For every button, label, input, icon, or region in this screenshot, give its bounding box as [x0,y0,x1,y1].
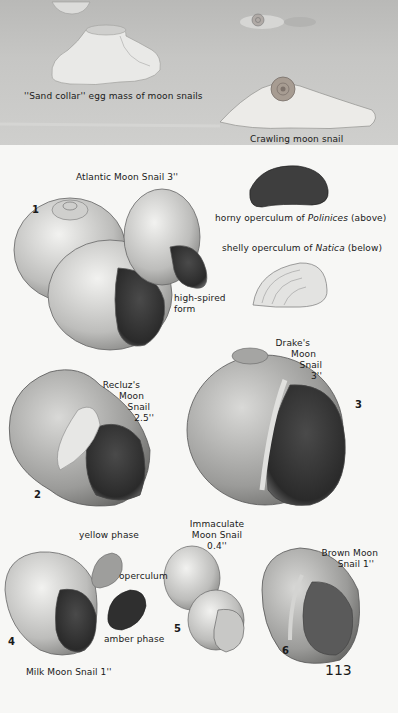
high-spired-label-line2: form [174,304,226,315]
figure-number-1: 1 [32,204,39,215]
recluz-moon-snail-label: Recluz's Moon Snail 2.5'' [100,380,154,424]
figure-number-4: 4 [8,636,15,647]
milk-moon-snail-shell [5,552,97,655]
figure-number-6: 6 [282,645,289,656]
yellow-phase-operculum [92,553,123,588]
operculum-label: operculum [119,571,168,582]
amber-phase-label: amber phase [104,634,164,645]
shelly-operculum-caption: shelly operculum of Natica (below) [222,243,382,254]
immaculate-moon-snail-shell [164,546,244,652]
page-number: 113 [325,662,352,678]
brown-moon-snail-label: Brown Moon Snail 1'' [318,548,378,570]
immaculate-moon-snail-label: Immaculate Moon Snail 0.4'' [185,519,249,552]
yellow-phase-label: yellow phase [79,530,139,541]
shelly-operculum-natica [253,263,327,307]
shell-plate-drawing [0,0,398,713]
atlantic-moon-snail-shell [14,189,207,350]
horny-operculum-caption: horny operculum of Polinices (above) [215,213,386,224]
amber-phase-operculum [108,590,146,630]
figure-number-2: 2 [34,489,41,500]
drake-moon-snail-label: Drake's Moon Snail 3'' [270,338,324,382]
milk-moon-snail-title: Milk Moon Snail 1'' [26,667,112,678]
high-spired-label: high-spired form [174,293,226,315]
high-spired-label-line1: high-spired [174,293,226,304]
figure-number-5: 5 [174,623,181,634]
horny-operculum-polinices [250,166,328,207]
atlantic-moon-snail-title: Atlantic Moon Snail 3'' [76,172,178,183]
figure-number-3: 3 [355,399,362,410]
